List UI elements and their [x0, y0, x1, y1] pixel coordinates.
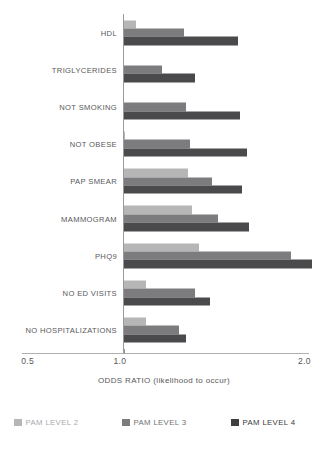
bar-2 [124, 243, 200, 251]
bar-3 [124, 289, 196, 297]
bar-4 [124, 223, 249, 231]
x-axis-line [22, 353, 309, 354]
category-label: MAMMOGRAM [61, 214, 117, 223]
legend-label: PAM LEVEL 3 [134, 418, 187, 427]
category-label: PHQ9 [95, 251, 117, 260]
category-group: PHQ9 [0, 237, 328, 274]
baseline-axis-line [123, 14, 124, 353]
x-tick-label: 1.0 [114, 356, 127, 366]
category-group: NO ED VISITS [0, 274, 328, 311]
bar-2 [124, 318, 146, 326]
bar-group [124, 168, 328, 195]
bar-2 [124, 206, 192, 214]
bar-group [124, 93, 328, 120]
legend-label: PAM LEVEL 2 [26, 418, 79, 427]
bar-2 [124, 280, 146, 288]
category-group: NO HOSPITALIZATIONS [0, 312, 328, 349]
category-group: MAMMOGRAM [0, 200, 328, 237]
bar-3 [124, 326, 179, 334]
legend-item-4[interactable]: PAM LEVEL 4 [231, 418, 295, 427]
category-group: NOT OBESE [0, 126, 328, 163]
bar-3 [124, 177, 213, 185]
bar-group [124, 317, 328, 344]
category-group: HDL [0, 14, 328, 51]
plot-area: HDLTRIGLYCERIDESNOT SMOKINGNOT OBESEPAP … [0, 14, 328, 359]
x-tick-label: 0.5 [21, 356, 34, 366]
chart-legend: PAM LEVEL 2PAM LEVEL 3PAM LEVEL 4 [12, 418, 317, 432]
bar-2 [124, 20, 137, 28]
legend-label: PAM LEVEL 4 [243, 418, 296, 427]
category-label: PAP SMEAR [70, 177, 117, 186]
bar-3 [124, 103, 187, 111]
bar-4 [124, 148, 248, 156]
x-tick-mark [124, 349, 125, 354]
x-tick-label: 2.0 [298, 356, 311, 366]
category-label: NO HOSPITALIZATIONS [25, 326, 117, 335]
bar-3 [124, 66, 163, 74]
bar-group [124, 56, 328, 83]
bar-3 [124, 252, 292, 260]
legend-item-3[interactable]: PAM LEVEL 3 [122, 418, 186, 427]
bar-group [124, 279, 328, 306]
bar-4 [124, 260, 312, 268]
bar-4 [124, 334, 187, 342]
bar-group [124, 205, 328, 232]
bar-4 [124, 111, 240, 119]
category-label: TRIGLYCERIDES [52, 65, 117, 74]
category-group: TRIGLYCERIDES [0, 51, 328, 88]
legend-swatch-icon [122, 419, 130, 427]
bar-2 [124, 169, 189, 177]
bar-group [124, 131, 328, 158]
bar-4 [124, 74, 196, 82]
bar-group [124, 19, 328, 46]
bar-4 [124, 297, 211, 305]
category-group: NOT SMOKING [0, 88, 328, 125]
x-axis-title: ODDS RATIO (likelihood to occur) [0, 376, 328, 385]
bar-4 [124, 37, 238, 45]
category-label: NOT OBESE [70, 140, 117, 149]
bar-group [124, 242, 328, 269]
legend-item-2[interactable]: PAM LEVEL 2 [14, 418, 78, 427]
legend-swatch-icon [231, 419, 239, 427]
category-group: PAP SMEAR [0, 163, 328, 200]
category-rows: HDLTRIGLYCERIDESNOT SMOKINGNOT OBESEPAP … [0, 14, 328, 349]
legend-swatch-icon [14, 419, 22, 427]
category-label: NO ED VISITS [63, 288, 117, 297]
category-label: NOT SMOKING [59, 102, 117, 111]
bar-4 [124, 186, 242, 194]
bar-3 [124, 140, 190, 148]
category-label: HDL [101, 28, 117, 37]
odds-ratio-bar-chart: HDLTRIGLYCERIDESNOT SMOKINGNOT OBESEPAP … [0, 0, 328, 455]
bar-3 [124, 28, 185, 36]
bar-3 [124, 214, 218, 222]
